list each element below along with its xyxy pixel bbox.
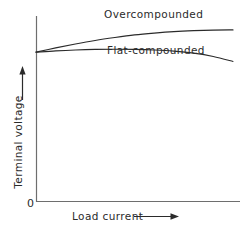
x-axis-label: Load current <box>72 210 143 222</box>
origin-label: 0 <box>27 197 34 210</box>
chart-canvas <box>0 0 250 236</box>
series-label-overcompounded: Overcompounded <box>104 8 203 20</box>
chart-figure: Overcompounded Flat-compounded Load curr… <box>0 0 250 236</box>
y-axis-label: Terminal voltage <box>12 92 24 192</box>
series-label-flat-compounded: Flat-compounded <box>107 44 205 56</box>
